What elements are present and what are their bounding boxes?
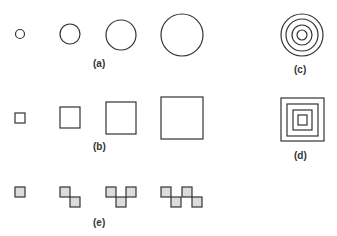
frame-2 bbox=[287, 104, 318, 136]
label-b: (b) bbox=[93, 141, 106, 152]
ring-1 bbox=[281, 14, 323, 56]
square-4 bbox=[161, 97, 203, 139]
label-d: (d) bbox=[294, 150, 307, 161]
frame-3 bbox=[293, 110, 312, 130]
tile bbox=[60, 187, 70, 197]
ring-4 bbox=[297, 30, 307, 40]
ring-2 bbox=[286, 19, 318, 51]
panel-d-concentric-squares: (d) bbox=[281, 98, 324, 161]
circle-3 bbox=[106, 20, 136, 50]
circle-4 bbox=[161, 14, 203, 56]
tile bbox=[70, 197, 80, 207]
circle-1 bbox=[16, 30, 25, 39]
tile bbox=[106, 187, 116, 197]
panel-b-squares: (b) bbox=[15, 97, 203, 152]
tile bbox=[192, 197, 202, 207]
tile bbox=[15, 187, 25, 197]
label-a: (a) bbox=[93, 58, 105, 69]
square-2 bbox=[60, 107, 80, 128]
figure-canvas: (a) (b) (c) (d) (e) bbox=[0, 0, 337, 236]
panel-e-tile-chains: (e) bbox=[15, 187, 202, 228]
tile bbox=[161, 187, 171, 197]
label-c: (c) bbox=[294, 64, 306, 75]
tile bbox=[126, 187, 136, 197]
tile bbox=[116, 197, 126, 207]
tile bbox=[171, 197, 181, 207]
frame-4 bbox=[298, 115, 307, 125]
panel-a-circles: (a) bbox=[16, 14, 204, 69]
square-1 bbox=[15, 113, 25, 123]
ring-3 bbox=[292, 25, 312, 45]
circle-2 bbox=[60, 24, 80, 44]
tile bbox=[182, 187, 192, 197]
square-3 bbox=[106, 102, 136, 134]
label-e: (e) bbox=[93, 217, 105, 228]
panel-c-concentric-circles: (c) bbox=[281, 14, 323, 75]
